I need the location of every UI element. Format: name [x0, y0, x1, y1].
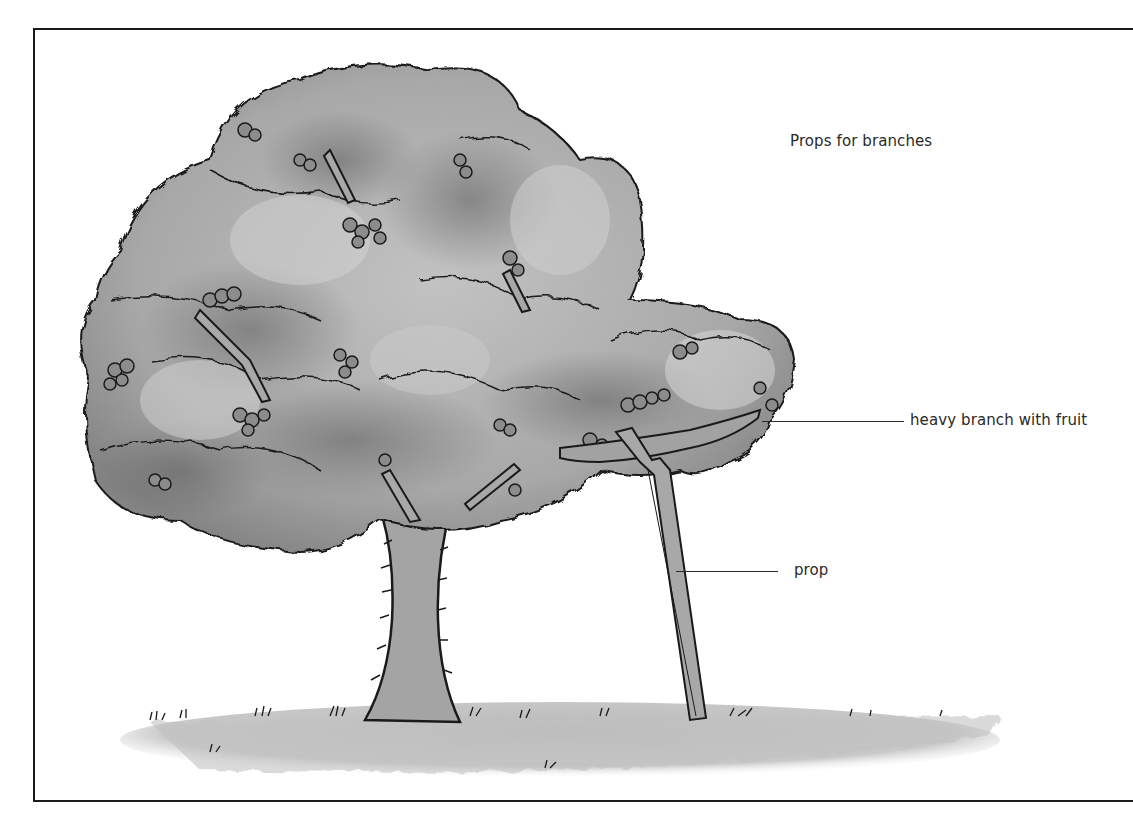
diagram-title: Props for branches [790, 132, 932, 150]
branch-leader-line [762, 421, 904, 422]
tree-trunk [365, 505, 460, 722]
label-heavy-branch: heavy branch with fruit [910, 411, 1087, 429]
label-prop: prop [794, 561, 828, 579]
ground [120, 702, 1000, 778]
prop-leader-line [676, 571, 778, 572]
